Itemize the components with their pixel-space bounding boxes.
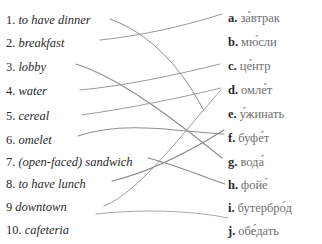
left-item-marker: 4.: [6, 84, 15, 99]
left-item-label: downtown: [15, 200, 66, 215]
left-item-marker: 1.: [6, 13, 15, 28]
connection-line-9-to-d: [104, 90, 221, 206]
right-item-marker: e.: [228, 107, 237, 122]
left-item-label: (open-faced) sandwich: [18, 155, 132, 170]
left-item-5[interactable]: 5.cereal: [0, 104, 49, 128]
left-item-label: breakfast: [18, 36, 64, 51]
left-item-marker: 6.: [6, 133, 15, 148]
left-item-label: water: [18, 84, 46, 99]
right-item-marker: b.: [228, 35, 238, 50]
left-item-marker: 7.: [6, 155, 15, 170]
left-item-10[interactable]: 10.cafeteria: [0, 218, 69, 242]
left-item-label: cafeteria: [25, 223, 69, 238]
left-item-marker: 5.: [6, 109, 15, 124]
right-item-label: омле́т: [241, 83, 272, 98]
right-item-label: буфе́т: [238, 131, 269, 146]
left-item-8[interactable]: 8.to have lunch: [0, 172, 86, 196]
left-item-6[interactable]: 6.omelet: [0, 128, 52, 152]
connection-line-2-to-a: [100, 14, 222, 40]
right-item-e[interactable]: e.у́жинать: [228, 102, 284, 126]
right-item-j[interactable]: j.обе́дать: [228, 219, 279, 243]
left-item-label: to have lunch: [18, 177, 85, 192]
left-item-marker: 8.: [6, 177, 15, 192]
left-item-marker: 9: [6, 200, 12, 215]
matching-exercise-page: 1.to have dinner2.breakfast3.lobby4.wate…: [0, 0, 322, 244]
right-item-label: бутербро́д: [238, 201, 292, 216]
connection-line-7-to-i: [148, 158, 225, 184]
left-item-7[interactable]: 7.(open-faced) sandwich: [0, 150, 133, 174]
connection-line-1-to-e: [110, 19, 204, 111]
right-item-b[interactable]: b.мю́сли: [228, 30, 277, 54]
right-item-label: обе́дать: [238, 224, 279, 239]
right-item-h[interactable]: h.фойе́: [228, 173, 268, 197]
right-item-a[interactable]: a.за́втрак: [228, 6, 280, 30]
left-item-3[interactable]: 3.lobby: [0, 55, 46, 79]
left-item-marker: 2.: [6, 36, 15, 51]
right-item-g[interactable]: g.вода́: [228, 150, 264, 174]
right-item-label: мю́сли: [241, 35, 277, 50]
connection-line-10-to-j: [96, 211, 228, 218]
right-item-marker: a.: [228, 11, 237, 26]
right-item-marker: i.: [228, 201, 235, 216]
left-item-marker: 3.: [6, 60, 15, 75]
right-item-label: фойе́: [241, 178, 268, 193]
right-item-marker: j.: [228, 224, 235, 239]
left-item-label: to have dinner: [18, 13, 90, 28]
left-item-1[interactable]: 1.to have dinner: [0, 8, 91, 32]
right-item-f[interactable]: f.буфе́т: [228, 126, 269, 150]
right-item-i[interactable]: i.бутербро́д: [228, 196, 292, 220]
right-item-c[interactable]: c.це́нтр: [228, 54, 270, 78]
connection-line-6-to-g: [78, 128, 224, 136]
left-item-label: cereal: [18, 109, 49, 124]
right-item-marker: f.: [228, 131, 235, 146]
left-item-label: omelet: [18, 133, 51, 148]
right-item-marker: h.: [228, 178, 238, 193]
right-item-marker: c.: [228, 59, 237, 74]
left-item-label: lobby: [18, 60, 46, 75]
connection-line-3-to-h: [76, 64, 222, 158]
right-item-marker: d.: [228, 83, 238, 98]
right-item-label: вода́: [240, 155, 264, 170]
connection-line-5-to-d: [82, 88, 221, 115]
left-item-2[interactable]: 2.breakfast: [0, 31, 64, 55]
right-item-label: за́втрак: [240, 11, 280, 26]
right-item-marker: g.: [228, 155, 237, 170]
left-item-9[interactable]: 9downtown: [0, 195, 67, 219]
right-item-label: у́жинать: [240, 107, 285, 122]
right-item-label: це́нтр: [240, 59, 271, 74]
connection-line-4-to-c: [80, 64, 220, 90]
right-item-d[interactable]: d.омле́т: [228, 78, 272, 102]
left-item-4[interactable]: 4.water: [0, 79, 47, 103]
left-item-marker: 10.: [6, 223, 22, 238]
